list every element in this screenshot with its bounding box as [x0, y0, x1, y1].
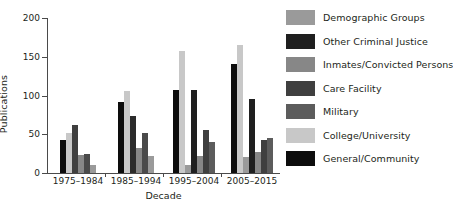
x-tick-mark — [221, 173, 222, 177]
x-tick-label: 1985–1994 — [111, 176, 161, 186]
bar — [267, 138, 273, 173]
legend-swatch — [286, 104, 315, 119]
y-tick-label: 0 — [34, 168, 40, 178]
bar-group — [231, 18, 273, 173]
y-tick-label: 150 — [23, 52, 40, 62]
legend-swatch — [286, 128, 315, 143]
y-axis-title: Publications — [0, 0, 9, 50]
legend-item: Inmates/Convicted Persons — [286, 53, 434, 77]
x-tick-mark — [163, 173, 164, 177]
bar — [237, 45, 243, 173]
x-axis-title: Decade — [47, 190, 280, 201]
legend-label: Care Facility — [323, 83, 382, 94]
legend-item: Care Facility — [286, 77, 434, 101]
y-tick-mark — [42, 173, 47, 174]
chart-legend: Demographic GroupsOther Criminal Justice… — [286, 6, 434, 171]
bar — [148, 156, 154, 173]
bar — [90, 165, 96, 173]
legend-label: General/Community — [323, 153, 419, 164]
y-tick-label: 50 — [29, 129, 40, 139]
legend-label: Other Criminal Justice — [323, 36, 428, 47]
legend-item: General/Community — [286, 147, 434, 171]
y-tick-label: 200 — [23, 13, 40, 23]
plot-area — [47, 18, 279, 173]
x-tick-label: 2005–2015 — [227, 176, 277, 186]
bar-group — [60, 18, 96, 173]
legend-swatch — [286, 151, 315, 166]
y-axis-title-label: Publications — [0, 54, 9, 154]
bar — [179, 51, 185, 173]
legend-swatch — [286, 34, 315, 49]
legend-item: College/University — [286, 124, 434, 148]
legend-swatch — [286, 10, 315, 25]
y-tick-label: 100 — [23, 91, 40, 101]
legend-item: Demographic Groups — [286, 6, 434, 30]
x-tick-label: 1995–2004 — [169, 176, 219, 186]
x-tick-label: 1975–1984 — [53, 176, 103, 186]
legend-label: Inmates/Convicted Persons — [323, 59, 453, 70]
legend-item: Military — [286, 100, 434, 124]
legend-item: Other Criminal Justice — [286, 30, 434, 54]
bar — [209, 142, 215, 173]
legend-swatch — [286, 81, 315, 96]
legend-label: Demographic Groups — [323, 12, 425, 23]
legend-label: Military — [323, 106, 359, 117]
bar-group — [118, 18, 154, 173]
bar-group — [173, 18, 215, 173]
legend-label: College/University — [323, 130, 410, 141]
legend-swatch — [286, 57, 315, 72]
x-tick-mark — [105, 173, 106, 177]
